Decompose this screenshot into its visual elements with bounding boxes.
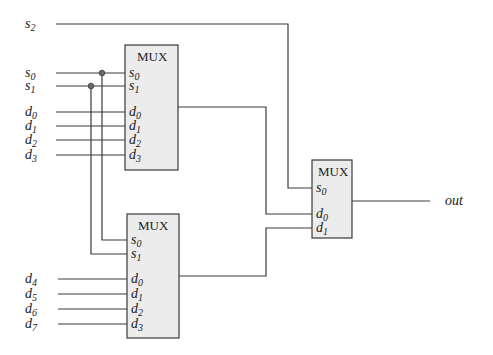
mux-final-title: MUX [318, 164, 349, 179]
mux-final: MUX s0 d0 d1 [312, 160, 352, 238]
mux-bottom: MUX s0 s1 d0 d1 d2 d3 [127, 214, 179, 338]
wire-s0-branch [102, 73, 127, 240]
wire-s2 [56, 24, 312, 188]
junction-s0 [99, 70, 105, 76]
mux-top: MUX s0 s1 d0 d1 d2 d3 [125, 45, 178, 170]
mux-diagram: MUX s0 s1 d0 d1 d2 d3 MUX s0 s1 d0 d1 d2… [0, 0, 493, 355]
wire-mux-bottom-out [179, 228, 312, 276]
wire-mux-top-out [178, 107, 312, 214]
input-label-d3: d3 [25, 147, 37, 164]
mux-bottom-title: MUX [138, 218, 169, 233]
input-label-s2: s2 [25, 16, 35, 33]
junction-s1 [88, 83, 94, 89]
wire-s1-branch [91, 86, 127, 254]
output-label: out [445, 193, 464, 208]
mux-top-title: MUX [137, 49, 168, 64]
input-label-d7: d7 [25, 316, 38, 333]
